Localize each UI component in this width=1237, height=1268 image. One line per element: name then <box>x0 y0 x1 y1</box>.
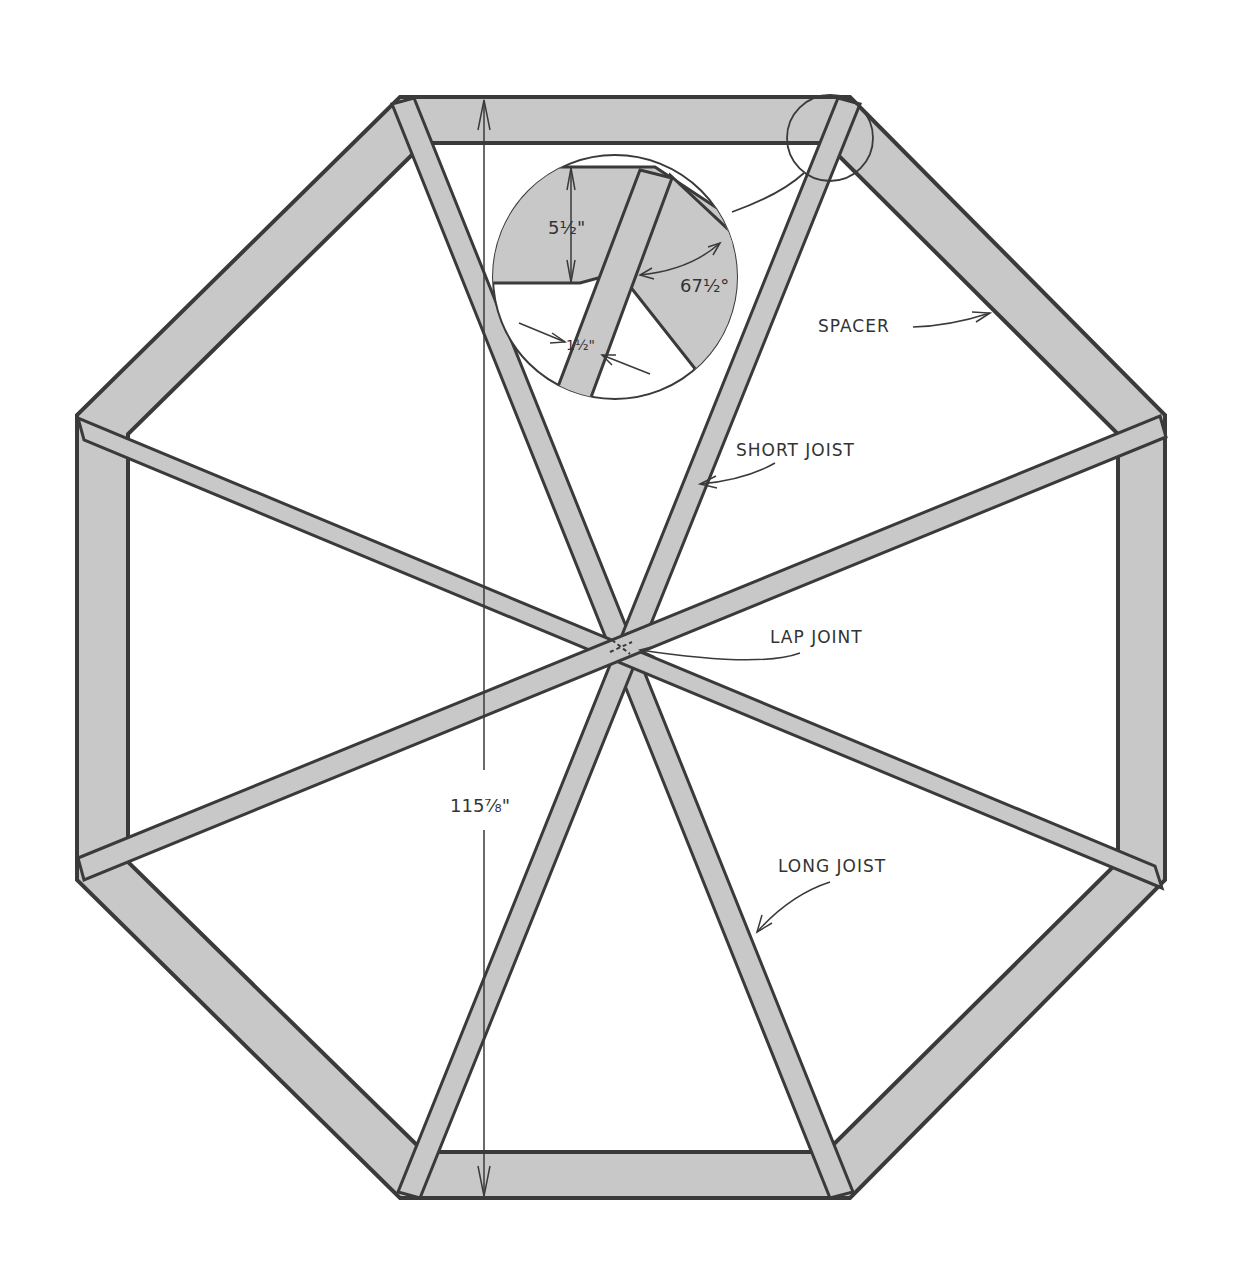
spacer-label: SPACER <box>818 316 890 336</box>
lap-joint-label: LAP JOINT <box>770 627 863 647</box>
long-joist-label: LONG JOIST <box>778 856 886 876</box>
spacer-width-dim: 5½" <box>548 217 585 238</box>
miter-angle-dim: 67½° <box>680 275 729 296</box>
joist-thickness-dim: 1½" <box>566 337 595 353</box>
short-joist-label: SHORT JOIST <box>736 440 855 460</box>
overall-dimension-text: 115⅞" <box>450 795 510 816</box>
label-spacer: SPACER <box>818 312 990 336</box>
label-long-joist: LONG JOIST <box>757 856 886 932</box>
octagon-frame-diagram: 115⅞" 5½" <box>0 0 1237 1268</box>
